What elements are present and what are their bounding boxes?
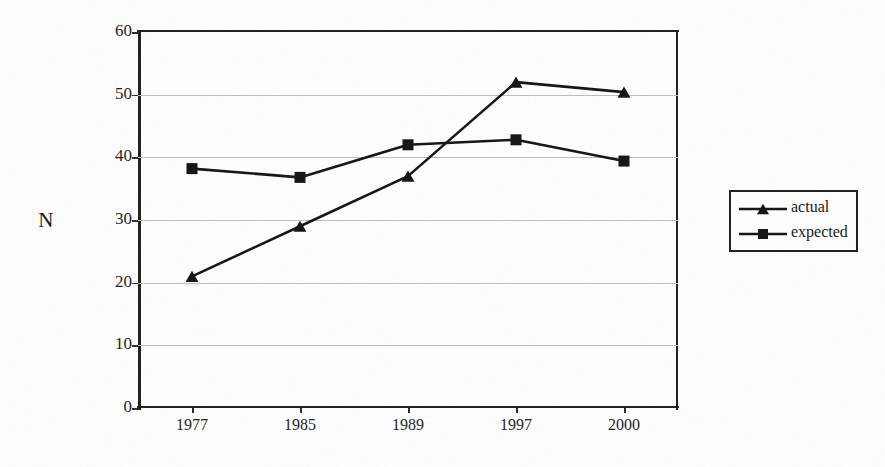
- square-marker-icon: [758, 229, 768, 239]
- y-tick-label: 40: [98, 146, 132, 166]
- y-tick-label: 10: [98, 334, 132, 354]
- legend-marker-sample: [737, 197, 789, 221]
- chart-legend: actualexpected: [729, 190, 858, 252]
- plot-area: [138, 32, 678, 408]
- square-marker-icon: [187, 163, 198, 174]
- legend-item-actual: actual: [731, 197, 856, 221]
- square-marker-icon: [619, 156, 630, 167]
- legend-label: actual: [791, 198, 829, 216]
- legend-item-expected: expected: [731, 222, 856, 246]
- x-tick-mark: [408, 408, 410, 413]
- x-tick-label: 2000: [589, 416, 659, 434]
- y-tick-label: 50: [98, 84, 132, 104]
- y-tick-label: 30: [98, 209, 132, 229]
- y-tick-mark: [132, 408, 138, 410]
- x-tick-mark: [300, 408, 302, 413]
- y-axis-tick-labels: 6050403020100: [96, 32, 132, 408]
- x-axis-tick-labels: 19771985198919972000: [138, 416, 678, 442]
- y-tick-label: 60: [98, 21, 132, 41]
- triangle-marker-icon: [186, 271, 199, 282]
- x-tick-label: 1989: [373, 416, 443, 434]
- y-tick-label: 0: [98, 397, 132, 417]
- square-marker-icon: [511, 134, 522, 145]
- x-tick-mark: [192, 408, 194, 413]
- square-marker-icon: [295, 172, 306, 183]
- y-axis-title: N: [26, 208, 66, 233]
- x-tick-label: 1985: [265, 416, 335, 434]
- x-tick-label: 1997: [481, 416, 551, 434]
- x-tick-mark: [516, 408, 518, 413]
- x-tick-label: 1977: [157, 416, 227, 434]
- square-marker-icon: [403, 139, 414, 150]
- triangle-marker-icon: [294, 221, 307, 232]
- series-actual: [186, 77, 631, 282]
- series-plot: [138, 32, 678, 408]
- legend-label: expected: [791, 223, 848, 241]
- x-tick-mark: [624, 408, 626, 413]
- y-tick-label: 20: [98, 272, 132, 292]
- line-chart-figure: N 6050403020100 19771985198919972000 act…: [0, 0, 885, 467]
- legend-marker-sample: [737, 222, 789, 246]
